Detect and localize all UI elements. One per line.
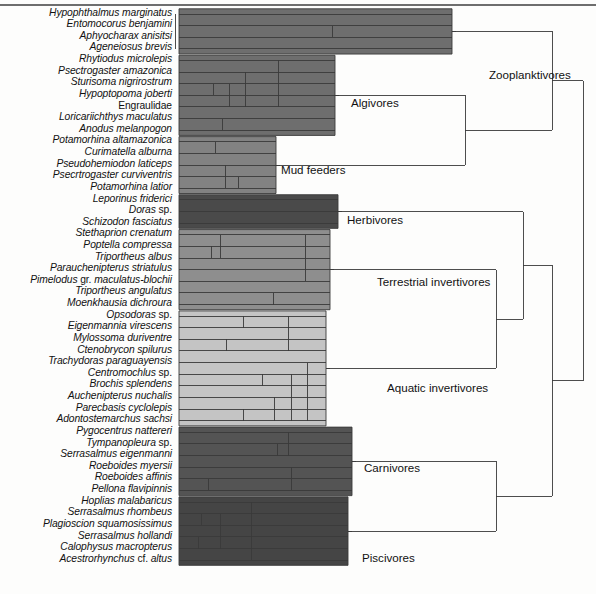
dendrogram-canvas bbox=[0, 0, 596, 594]
group-label-algivores: Algivores bbox=[351, 96, 399, 109]
group-label-terrestrial-invertivores: Terrestrial invertivores bbox=[377, 275, 490, 288]
group-label-mud-feeders: Mud feeders bbox=[281, 163, 345, 176]
group-label-zooplanktivores: Zooplanktivores bbox=[489, 68, 571, 81]
cluster-block-carnivores bbox=[179, 427, 352, 496]
group-label-piscivores: Piscivores bbox=[362, 551, 415, 564]
group-label-carnivores: Carnivores bbox=[364, 461, 420, 474]
cluster-block-piscivores bbox=[179, 497, 348, 566]
cluster-block-zooplanktivores bbox=[179, 9, 452, 54]
group-label-herbivores: Herbivores bbox=[347, 213, 403, 226]
group-label-aquatic-invertivores: Aquatic invertivores bbox=[387, 381, 488, 394]
dendrogram-figure: Hypophthalmus marginatusEntomocorus benj… bbox=[0, 0, 596, 594]
